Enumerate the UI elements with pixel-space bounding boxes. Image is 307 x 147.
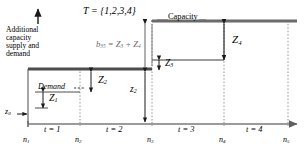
b35-term: b35 (96, 39, 106, 49)
node-gridlines (28, 20, 288, 124)
capacity-expansion-diagram: T = {1,2,3,4} Additional capacity supply… (0, 0, 307, 147)
Z4-label: Z4 (232, 34, 242, 46)
node-label-n4: n4 (219, 136, 225, 144)
b35-total-arrow (145, 24, 152, 68)
node-label-n1: n1 (23, 136, 29, 144)
Z4-term: Z4 (133, 39, 140, 49)
Z1-label: Z1 (49, 93, 58, 104)
balance-equation-label: b35 = Z3 + Z4 (96, 40, 141, 50)
Z3-label: Z3 (165, 58, 173, 69)
node-label-n5: n5 (283, 136, 289, 144)
period-label-t1: t = 1 (44, 126, 60, 135)
period-label-t2: t = 2 (106, 126, 122, 135)
figure-title: T = {1,2,3,4} (83, 6, 136, 17)
period-label-t3: t = 3 (178, 126, 194, 135)
period-label-t4: t = 4 (246, 126, 262, 135)
z2-cumulative-label: z2 (130, 84, 137, 95)
additional-capacity-label: Additional capacity supply and demand (6, 26, 52, 58)
capacity-label: Capacity (168, 13, 198, 22)
node-label-n3: n3 (147, 136, 153, 144)
Z2-label: Z2 (98, 74, 107, 86)
demand-label: Demand (38, 83, 65, 91)
equals-sign: = (108, 39, 116, 49)
node-label-n2: n2 (75, 136, 81, 144)
z0-label: z0 (5, 108, 11, 116)
Z3-term: Z3 (116, 39, 123, 49)
